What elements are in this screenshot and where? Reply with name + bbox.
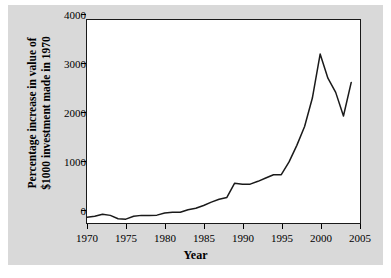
x-tick-mark-1975 xyxy=(126,224,127,229)
x-tick-mark-1985 xyxy=(204,224,205,229)
chart-screenshot: Percentage increase in value of $1000 in… xyxy=(0,0,391,278)
x-tick-mark-1970 xyxy=(87,224,88,229)
data-line-chart xyxy=(87,20,359,222)
x-tick-mark-2005 xyxy=(360,224,361,229)
x-tick-mark-1990 xyxy=(243,224,244,229)
x-tick-mark-1980 xyxy=(165,224,166,229)
y-axis-title-line-1: Percentage increase in value of xyxy=(25,13,39,213)
x-tick-label-1995: 1995 xyxy=(260,233,304,244)
x-axis-tick-labels: 1970 1975 1980 1985 1990 1995 2000 2005 xyxy=(8,233,383,249)
x-tick-label-1980: 1980 xyxy=(143,233,187,244)
x-tick-mark-1995 xyxy=(282,224,283,229)
x-axis-tick-marks xyxy=(8,224,383,232)
x-tick-mark-2000 xyxy=(321,224,322,229)
figure-panel: Percentage increase in value of $1000 in… xyxy=(8,5,383,265)
x-tick-label-2005: 2005 xyxy=(338,233,382,244)
x-tick-label-1970: 1970 xyxy=(65,233,109,244)
x-tick-label-1985: 1985 xyxy=(182,233,226,244)
x-tick-label-1975: 1975 xyxy=(104,233,148,244)
y-tick-mark-4000 xyxy=(81,14,86,15)
series-line xyxy=(87,54,351,219)
x-tick-label-1990: 1990 xyxy=(221,233,265,244)
x-tick-label-2000: 2000 xyxy=(299,233,343,244)
x-axis-title: Year xyxy=(8,248,383,263)
plot-area xyxy=(86,19,361,224)
